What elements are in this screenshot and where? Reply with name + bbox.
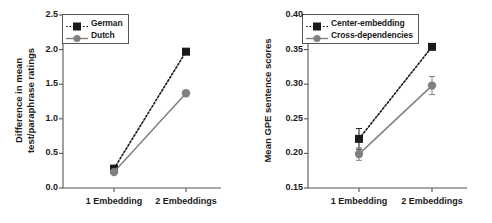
legend-item-cross-dependencies[interactable]: Cross-dependencies [306,29,413,41]
y-tick-label: 0.40 [270,9,303,19]
legend-item-center-embedding[interactable]: Center-embedding [306,17,413,29]
y-tick-label: 0.20 [270,147,303,157]
legend-key-square-dotted-icon [306,18,328,29]
x-tick-label: 2 Embeddings [146,196,226,206]
y-tick-label: 0.0 [25,182,58,192]
legend-key-circle-solid-icon [306,30,328,41]
legend-label-dutch: Dutch [91,30,115,40]
legend-label-german: German [91,18,123,28]
legend-key-circle-solid-icon [66,30,88,41]
y-tick-label: 0.35 [270,44,303,54]
legend-item-dutch[interactable]: Dutch [66,29,123,41]
legend-right: Center-embedding Cross-dependencies [302,14,419,44]
legend-label-center-embedding: Center-embedding [331,18,405,28]
legend-item-german[interactable]: German [66,17,123,29]
x-tick-label: 1 Embedding [319,196,399,206]
legend-label-cross-dependencies: Cross-dependencies [331,30,413,40]
legend-left: German Dutch [62,14,129,44]
y-tick-label: 1.5 [25,78,58,88]
x-tick-label: 1 Embedding [74,196,154,206]
y-tick-label: 2.5 [25,9,58,19]
y-tick-label: 1.0 [25,113,58,123]
y-tick-label: 0.25 [270,113,303,123]
y-tick-label: 0.15 [270,182,303,192]
legend-key-square-dotted-icon [66,18,88,29]
y-tick-label: 2.0 [25,44,58,54]
x-tick-label: 2 Embeddings [392,196,472,206]
y-tick-label: 0.5 [25,147,58,157]
y-tick-label: 0.30 [270,78,303,88]
figure-two-panel-line-charts: Difference in mean test/paraphrase ratin… [0,0,492,223]
